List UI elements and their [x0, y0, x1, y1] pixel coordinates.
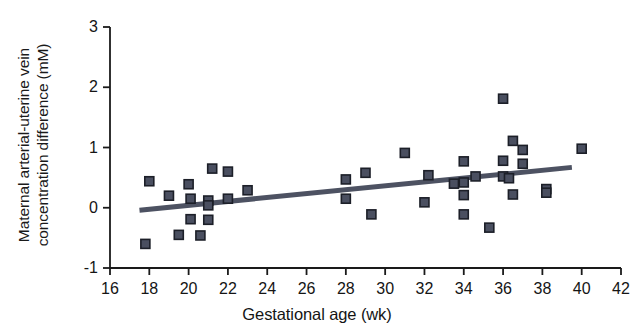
y-tick-label: 3 — [89, 18, 98, 36]
x-tick-label: 18 — [140, 280, 158, 298]
data-point — [208, 164, 217, 173]
data-point — [164, 191, 173, 200]
data-point — [449, 179, 458, 188]
data-point — [196, 231, 205, 240]
x-tick-label: 24 — [258, 280, 276, 298]
y-tick-label: 0 — [89, 199, 98, 217]
data-point — [204, 215, 213, 224]
data-point — [504, 174, 513, 183]
data-point — [577, 144, 586, 153]
data-point — [341, 194, 350, 203]
data-point — [367, 210, 376, 219]
data-point — [186, 215, 195, 224]
data-point — [459, 191, 468, 200]
scatter-plot-figure: Maternal arterial-uterine vein concentra… — [0, 0, 634, 334]
y-tick-label: 2 — [89, 78, 98, 96]
x-tick-label: 32 — [416, 280, 434, 298]
data-point — [508, 190, 517, 199]
x-tick-label: 34 — [455, 280, 473, 298]
x-tick-label: 40 — [573, 280, 591, 298]
data-point — [485, 223, 494, 232]
data-point — [184, 180, 193, 189]
data-point — [508, 136, 517, 145]
data-point — [499, 94, 508, 103]
data-point — [518, 159, 527, 168]
x-tick-label: 16 — [101, 280, 119, 298]
data-point — [459, 157, 468, 166]
x-tick-label: 36 — [494, 280, 512, 298]
x-axis-label: Gestational age (wk) — [0, 305, 634, 324]
y-tick-label: 1 — [89, 139, 98, 157]
data-point — [243, 186, 252, 195]
data-point — [471, 172, 480, 181]
x-tick-label: 30 — [376, 280, 394, 298]
x-tick-label: 42 — [612, 280, 630, 298]
x-tick-label: 26 — [298, 280, 316, 298]
data-point — [424, 171, 433, 180]
data-point — [223, 167, 232, 176]
data-point — [499, 156, 508, 165]
data-point — [400, 148, 409, 157]
data-point — [420, 198, 429, 207]
y-tick-label: -1 — [84, 259, 98, 277]
data-point — [145, 177, 154, 186]
data-point — [223, 194, 232, 203]
data-point — [204, 201, 213, 210]
data-point — [361, 168, 370, 177]
x-tick-label: 28 — [337, 280, 355, 298]
data-point — [186, 194, 195, 203]
data-point — [174, 230, 183, 239]
data-point — [341, 175, 350, 184]
data-point — [459, 178, 468, 187]
data-point — [459, 210, 468, 219]
x-tick-label: 22 — [219, 280, 237, 298]
data-point — [518, 145, 527, 154]
data-point — [141, 239, 150, 248]
data-point — [542, 188, 551, 197]
x-tick-label: 38 — [533, 280, 551, 298]
x-tick-label: 20 — [180, 280, 198, 298]
